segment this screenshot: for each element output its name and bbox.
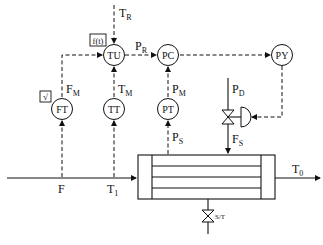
- steam-trap-label: S/T: [215, 213, 226, 221]
- process-diagram: S/T TU PC PY FT TT P: [0, 0, 323, 245]
- instrument-ft[interactable]: FT: [52, 99, 73, 120]
- label-fs: FS: [232, 132, 243, 148]
- svg-text:PY: PY: [276, 50, 289, 61]
- svg-text:FT: FT: [56, 104, 68, 115]
- instrument-tt[interactable]: TT: [104, 99, 125, 120]
- label-tm: TM: [118, 82, 132, 98]
- heat-exchanger: [138, 155, 275, 199]
- label-tr: TR: [119, 6, 132, 22]
- svg-text:TU: TU: [107, 50, 121, 61]
- instrument-pc[interactable]: PC: [158, 45, 179, 66]
- py-output-signal: [252, 66, 282, 117]
- label-pm: PM: [172, 82, 186, 98]
- svg-text:f(t): f(t): [93, 36, 104, 46]
- label-pd: PD: [232, 82, 245, 98]
- instrument-tu[interactable]: TU: [104, 45, 125, 66]
- svg-text:√: √: [43, 92, 48, 102]
- sqrt-block: √: [40, 91, 51, 102]
- steam-trap-valve-icon[interactable]: [202, 210, 214, 222]
- svg-text:PT: PT: [162, 104, 174, 115]
- instrument-pt[interactable]: PT: [158, 99, 179, 120]
- ft-function-block: f(t): [90, 34, 106, 46]
- label-t0: T0: [292, 162, 303, 178]
- instrument-py[interactable]: PY: [272, 45, 293, 66]
- label-f: F: [58, 182, 65, 196]
- label-t1: T1: [107, 182, 118, 198]
- svg-text:TT: TT: [108, 104, 120, 115]
- svg-text:PC: PC: [162, 50, 175, 61]
- label-pr: PR: [135, 39, 148, 55]
- label-ps: PS: [172, 130, 183, 146]
- control-valve-icon[interactable]: [222, 107, 251, 127]
- label-fm: FM: [66, 82, 80, 98]
